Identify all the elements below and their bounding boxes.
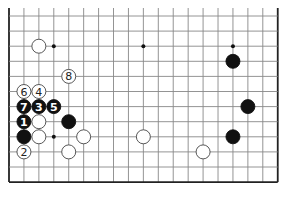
white-stone-icon <box>136 130 150 144</box>
black-stone: 5 <box>47 100 61 114</box>
white-stone: 4 <box>32 85 46 99</box>
white-stone <box>77 130 91 144</box>
star-point-icon <box>52 135 56 139</box>
black-stone-icon <box>241 100 255 114</box>
white-stone-icon <box>77 130 91 144</box>
white-stone <box>32 130 46 144</box>
black-stone <box>62 115 76 129</box>
move-number-label: 8 <box>65 70 72 83</box>
black-stone-icon <box>226 130 240 144</box>
star-point-icon <box>231 44 235 48</box>
black-stone: 1 <box>17 115 31 129</box>
white-stone-icon <box>32 115 46 129</box>
stones-layer: 86473512 <box>17 39 255 159</box>
white-stone-icon <box>196 145 210 159</box>
white-stone: 2 <box>17 145 31 159</box>
white-stone-icon <box>32 130 46 144</box>
black-stone <box>226 54 240 68</box>
black-stone <box>226 130 240 144</box>
black-stone: 7 <box>17 100 31 114</box>
move-number-label: 3 <box>35 101 43 114</box>
white-stone-icon <box>32 39 46 53</box>
black-stone <box>17 130 31 144</box>
black-stone-icon <box>17 130 31 144</box>
move-number-label: 4 <box>35 86 42 99</box>
move-number-label: 5 <box>50 101 58 114</box>
go-board-diagram: 86473512 <box>0 0 282 197</box>
star-point-icon <box>52 44 56 48</box>
move-number-label: 2 <box>20 146 27 159</box>
white-stone <box>136 130 150 144</box>
black-stone-icon <box>226 54 240 68</box>
move-number-label: 6 <box>20 86 27 99</box>
black-stone: 3 <box>32 100 46 114</box>
white-stone-icon <box>62 145 76 159</box>
white-stone: 8 <box>62 69 76 83</box>
white-stone: 6 <box>17 85 31 99</box>
move-number-label: 7 <box>20 101 28 114</box>
board-grid <box>9 8 278 182</box>
white-stone <box>32 115 46 129</box>
star-point-icon <box>141 44 145 48</box>
white-stone <box>196 145 210 159</box>
move-number-label: 1 <box>20 116 28 129</box>
white-stone <box>32 39 46 53</box>
black-stone-icon <box>62 115 76 129</box>
black-stone <box>241 100 255 114</box>
white-stone <box>62 145 76 159</box>
